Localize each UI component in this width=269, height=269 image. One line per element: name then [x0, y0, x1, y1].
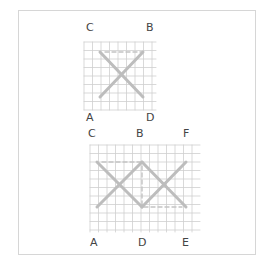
label-bottom-b: B: [136, 128, 144, 139]
label-bottom-d: D: [138, 237, 146, 248]
label-bottom-a: A: [90, 237, 98, 248]
label-top-d: D: [146, 112, 154, 123]
label-top-a: A: [86, 112, 94, 123]
label-top-b: B: [146, 22, 154, 33]
label-bottom-f: F: [183, 128, 189, 139]
x-crossing-diagram: [0, 0, 269, 269]
label-bottom-c: C: [88, 128, 96, 139]
label-top-c: C: [86, 22, 94, 33]
label-bottom-e: E: [182, 237, 189, 248]
